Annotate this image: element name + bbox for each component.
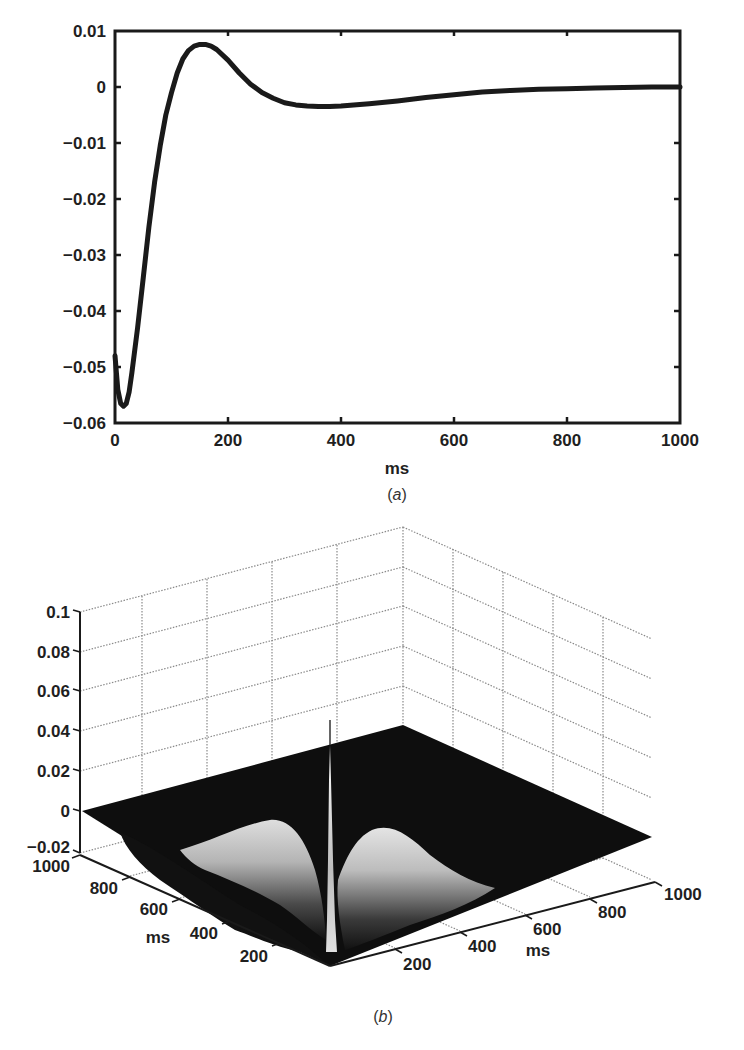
y-tick-labels: 0.01 0 −0.01 −0.02 −0.03 −0.04 −0.05 −0.…: [63, 22, 107, 433]
z-tick-label: 0.02: [37, 762, 70, 781]
right-axis-tick-label: 400: [468, 937, 496, 956]
y-tick-label: −0.02: [63, 190, 106, 209]
panel-b: 0.1 0.08 0.06 0.04 0.02 0 −0.02 1000 800…: [27, 527, 702, 1025]
y-tick-label: 0: [97, 78, 106, 97]
panel-caption-b: (b): [373, 1008, 393, 1025]
y-tick-label: −0.04: [63, 302, 107, 321]
y-tick-label: 0.01: [73, 22, 106, 41]
left-axis-tick-label: 200: [240, 947, 268, 966]
panel-caption-a: (a): [387, 486, 407, 503]
y-tick-label: −0.01: [63, 134, 106, 153]
left-axis-label: ms: [146, 928, 171, 947]
z-tick-label: −0.02: [27, 838, 70, 857]
x-tick-label: 1000: [661, 431, 699, 450]
y-tick-label: −0.03: [63, 246, 106, 265]
y-tick-marks: [115, 87, 680, 367]
x-tick-label: 800: [553, 431, 581, 450]
left-axis-tick-label: 600: [140, 900, 168, 919]
z-tick-label: 0.08: [37, 643, 70, 662]
right-axis-tick-label: 1000: [664, 885, 702, 904]
right-axis-label: ms: [526, 941, 551, 960]
z-tick-label: 0.1: [46, 603, 70, 622]
y-tick-label: −0.05: [63, 358, 106, 377]
left-axis-tick-label: 400: [190, 924, 218, 943]
right-axis-tick-label: 800: [598, 903, 626, 922]
left-axis-tick-label: 800: [90, 879, 118, 898]
x-tick-label: 600: [440, 431, 468, 450]
data-line: [115, 44, 680, 406]
z-tick-label: 0: [61, 802, 70, 821]
right-axis-tick-label: 200: [403, 955, 431, 974]
panel-a: 0.01 0 −0.01 −0.02 −0.03 −0.04 −0.05 −0.…: [63, 22, 699, 503]
x-tick-label: 400: [327, 431, 355, 450]
left-axis-tick-label: 1000: [32, 857, 70, 876]
x-axis-label: ms: [385, 459, 410, 478]
x-tick-labels: 0 200 400 600 800 1000: [110, 431, 699, 450]
right-axis-tick-label: 600: [533, 920, 561, 939]
z-tick-label: 0.06: [37, 682, 70, 701]
z-tick-labels: 0.1 0.08 0.06 0.04 0.02 0 −0.02: [27, 603, 71, 857]
x-tick-label: 0: [110, 431, 119, 450]
z-tick-label: 0.04: [37, 722, 71, 741]
z-tick-marks: [73, 610, 80, 853]
figure: 0.01 0 −0.01 −0.02 −0.03 −0.04 −0.05 −0.…: [0, 0, 744, 1050]
x-tick-label: 200: [214, 431, 242, 450]
y-tick-label: −0.06: [63, 414, 106, 433]
